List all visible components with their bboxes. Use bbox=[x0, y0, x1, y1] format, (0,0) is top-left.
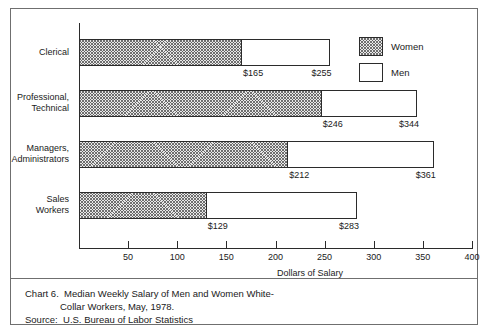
category-label-line1: Professional, bbox=[0, 92, 69, 103]
category-label-line2: Technical bbox=[0, 103, 69, 114]
bar-women-2 bbox=[80, 142, 288, 167]
x-tick-label-250: 250 bbox=[317, 252, 332, 262]
x-tick-250 bbox=[325, 241, 326, 249]
category-label-line1: Sales bbox=[0, 194, 69, 205]
x-tick-100 bbox=[177, 241, 178, 249]
x-tick-label-100: 100 bbox=[170, 252, 185, 262]
legend-label-men: Men bbox=[391, 67, 409, 78]
x-tick-400 bbox=[472, 241, 473, 249]
chart-figure: 50100150200250300350400 Clerical$165$255… bbox=[10, 8, 478, 325]
value-label-men-3: $283 bbox=[339, 221, 359, 231]
x-tick-0 bbox=[79, 241, 80, 249]
value-label-women-3: $129 bbox=[208, 221, 228, 231]
value-label-men-0: $255 bbox=[312, 68, 332, 78]
category-label-line2: Workers bbox=[0, 205, 69, 216]
bar-men-0 bbox=[79, 39, 330, 66]
bar-men-3 bbox=[79, 192, 357, 219]
x-tick-200 bbox=[276, 241, 277, 249]
caption-source: Source: U.S. Bureau of Labor Statistics bbox=[25, 313, 274, 326]
caption-line-1: Chart 6. Median Weekly Salary of Men and… bbox=[25, 287, 274, 300]
value-label-men-2: $361 bbox=[416, 170, 436, 180]
bar-women-3 bbox=[80, 193, 207, 218]
bar-women-0 bbox=[80, 40, 242, 65]
x-axis-title: Dollars of Salary bbox=[11, 268, 477, 278]
category-label-line1: Clerical bbox=[0, 47, 69, 58]
x-tick-label-300: 300 bbox=[366, 252, 381, 262]
caption-divider bbox=[11, 278, 477, 279]
legend-swatch-men bbox=[359, 63, 383, 82]
x-axis-title-text: Dollars of Salary bbox=[277, 268, 343, 278]
value-label-women-1: $246 bbox=[323, 119, 343, 129]
category-label-0: Clerical bbox=[0, 47, 69, 58]
bar-men-2 bbox=[79, 141, 434, 168]
x-tick-label-350: 350 bbox=[415, 252, 430, 262]
x-tick-300 bbox=[374, 241, 375, 249]
x-tick-label-200: 200 bbox=[268, 252, 283, 262]
x-tick-150 bbox=[226, 241, 227, 249]
value-label-men-1: $344 bbox=[399, 119, 419, 129]
x-tick-label-150: 150 bbox=[219, 252, 234, 262]
bar-men-1 bbox=[79, 90, 417, 117]
caption-line-2: Collar Workers, May, 1978. bbox=[25, 300, 274, 313]
category-label-3: SalesWorkers bbox=[0, 194, 69, 216]
legend-swatch-women bbox=[359, 37, 383, 56]
x-tick-350 bbox=[423, 241, 424, 249]
value-label-women-2: $212 bbox=[289, 170, 309, 180]
x-tick-label-400: 400 bbox=[464, 252, 479, 262]
x-tick-label-50: 50 bbox=[123, 252, 133, 262]
category-label-line1: Managers, bbox=[0, 143, 69, 154]
bar-women-1 bbox=[80, 91, 322, 116]
category-label-line2: Administrators bbox=[0, 154, 69, 165]
plot-area: 50100150200250300350400 Clerical$165$255… bbox=[11, 9, 477, 324]
category-label-2: Managers,Administrators bbox=[0, 143, 69, 165]
x-tick-50 bbox=[128, 241, 129, 249]
chart-caption: Chart 6. Median Weekly Salary of Men and… bbox=[25, 287, 274, 326]
value-label-women-0: $165 bbox=[243, 68, 263, 78]
category-label-1: Professional,Technical bbox=[0, 92, 69, 114]
legend-label-women: Women bbox=[391, 41, 424, 52]
